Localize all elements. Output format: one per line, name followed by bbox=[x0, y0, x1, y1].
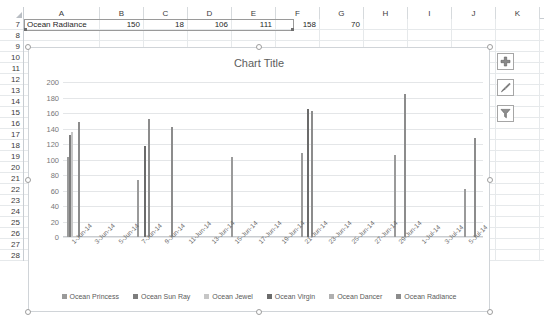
cell-K8[interactable] bbox=[496, 30, 540, 41]
cell-K23[interactable] bbox=[496, 195, 540, 206]
column-header-i[interactable]: I bbox=[408, 7, 452, 19]
cell-J7[interactable] bbox=[452, 19, 496, 30]
cell-D7[interactable]: 106 bbox=[188, 19, 232, 30]
chart-resize-handle-middle-right[interactable] bbox=[487, 177, 493, 183]
chart-bar[interactable] bbox=[307, 109, 309, 237]
column-header-e[interactable]: E bbox=[232, 7, 276, 19]
chart-styles-button[interactable] bbox=[497, 79, 514, 96]
chart-title[interactable]: Chart Title bbox=[29, 57, 489, 69]
chart-elements-button[interactable] bbox=[497, 53, 514, 70]
row-header-14[interactable]: 14 bbox=[0, 96, 23, 107]
cell-K19[interactable] bbox=[496, 151, 540, 162]
cell-H7[interactable] bbox=[364, 19, 408, 30]
cell-F7[interactable]: 158 bbox=[276, 19, 320, 30]
cell-K20[interactable] bbox=[496, 162, 540, 173]
column-header-g[interactable]: G bbox=[320, 7, 364, 19]
cell-B7[interactable]: 150 bbox=[100, 19, 144, 30]
row-header-27[interactable]: 27 bbox=[0, 239, 23, 250]
column-header-h[interactable]: H bbox=[364, 7, 408, 19]
chart-bar[interactable] bbox=[404, 94, 406, 237]
cell-C8[interactable] bbox=[144, 30, 188, 41]
row-header-22[interactable]: 22 bbox=[0, 184, 23, 195]
category-axis-labels[interactable]: 1-Jun-143-Jun-145-Jun-147-Jun-149-Jun-14… bbox=[63, 240, 483, 288]
row-header-7[interactable]: 7 bbox=[0, 19, 23, 30]
cell-I8[interactable] bbox=[408, 30, 452, 41]
chart-resize-handle-bottom-left[interactable] bbox=[25, 309, 31, 315]
cell-K17[interactable] bbox=[496, 129, 540, 140]
chart-legend[interactable]: Ocean PrincessOcean Sun RayOcean JewelOc… bbox=[29, 293, 489, 300]
chart-filters-button[interactable] bbox=[497, 105, 514, 122]
row-header-18[interactable]: 18 bbox=[0, 140, 23, 151]
row-header-21[interactable]: 21 bbox=[0, 173, 23, 184]
row-header-12[interactable]: 12 bbox=[0, 74, 23, 85]
chart-bar[interactable] bbox=[71, 132, 73, 237]
row-header-10[interactable]: 10 bbox=[0, 52, 23, 63]
cell-K21[interactable] bbox=[496, 173, 540, 184]
row-header-16[interactable]: 16 bbox=[0, 118, 23, 129]
cell-K25[interactable] bbox=[496, 217, 540, 228]
column-header-d[interactable]: D bbox=[188, 7, 232, 19]
chart-bar[interactable] bbox=[464, 189, 466, 237]
row-header-9[interactable]: 9 bbox=[0, 41, 23, 52]
cell-K9[interactable] bbox=[496, 41, 540, 52]
legend-item[interactable]: Ocean Jewel bbox=[204, 293, 252, 300]
cell-G7[interactable]: 70 bbox=[320, 19, 364, 30]
cell-K26[interactable] bbox=[496, 228, 540, 239]
cell-E8[interactable] bbox=[232, 30, 276, 41]
cell-E7[interactable]: 111 bbox=[232, 19, 276, 30]
chart-bar[interactable] bbox=[171, 127, 173, 237]
row-header-25[interactable]: 25 bbox=[0, 217, 23, 228]
cell-I7[interactable] bbox=[408, 19, 452, 30]
chart-resize-handle-middle-left[interactable] bbox=[25, 177, 31, 183]
legend-item[interactable]: Ocean Virgin bbox=[267, 293, 315, 300]
row-header-19[interactable]: 19 bbox=[0, 151, 23, 162]
row-header-24[interactable]: 24 bbox=[0, 206, 23, 217]
legend-item[interactable]: Ocean Princess bbox=[62, 293, 119, 300]
row-header-20[interactable]: 20 bbox=[0, 162, 23, 173]
row-header-17[interactable]: 17 bbox=[0, 129, 23, 140]
cell-H8[interactable] bbox=[364, 30, 408, 41]
column-header-k[interactable]: K bbox=[496, 7, 540, 19]
column-header-c[interactable]: C bbox=[144, 7, 188, 19]
chart-bar[interactable] bbox=[148, 119, 150, 237]
chart-resize-handle-top-center[interactable] bbox=[256, 44, 262, 50]
cell-F8[interactable] bbox=[276, 30, 320, 41]
cell-A7[interactable]: Ocean Radiance bbox=[24, 19, 100, 30]
legend-item[interactable]: Ocean Radiance bbox=[396, 293, 456, 300]
cell-J8[interactable] bbox=[452, 30, 496, 41]
row-header-23[interactable]: 23 bbox=[0, 195, 23, 206]
column-header-a[interactable]: A bbox=[24, 7, 100, 19]
cell-K7[interactable] bbox=[496, 19, 540, 30]
chart-bar[interactable] bbox=[311, 111, 313, 237]
chart-bar[interactable] bbox=[144, 146, 146, 237]
chart-resize-handle-bottom-right[interactable] bbox=[487, 309, 493, 315]
cell-K27[interactable] bbox=[496, 239, 540, 250]
cell-A8[interactable] bbox=[24, 30, 100, 41]
chart-bar[interactable] bbox=[78, 122, 80, 237]
chart-resize-handle-top-left[interactable] bbox=[25, 44, 31, 50]
chart-bar[interactable] bbox=[474, 138, 476, 237]
column-header-f[interactable]: F bbox=[276, 7, 320, 19]
row-header-8[interactable]: 8 bbox=[0, 30, 23, 41]
cell-K22[interactable] bbox=[496, 184, 540, 195]
cell-K18[interactable] bbox=[496, 140, 540, 151]
chart-resize-handle-bottom-center[interactable] bbox=[256, 309, 262, 315]
row-header-28[interactable]: 28 bbox=[0, 250, 23, 261]
legend-item[interactable]: Ocean Sun Ray bbox=[133, 293, 190, 300]
column-header-j[interactable]: J bbox=[452, 7, 496, 19]
cell-K24[interactable] bbox=[496, 206, 540, 217]
cell-C7[interactable]: 18 bbox=[144, 19, 188, 30]
row-header-15[interactable]: 15 bbox=[0, 107, 23, 118]
row-header-13[interactable]: 13 bbox=[0, 85, 23, 96]
cell-G8[interactable] bbox=[320, 30, 364, 41]
row-header-11[interactable]: 11 bbox=[0, 63, 23, 74]
chart-object[interactable]: Chart Title 020406080100120140160180200 … bbox=[28, 47, 490, 312]
legend-item[interactable]: Ocean Dancer bbox=[329, 293, 382, 300]
column-header-b[interactable]: B bbox=[100, 7, 144, 19]
cell-B8[interactable] bbox=[100, 30, 144, 41]
row-header-26[interactable]: 26 bbox=[0, 228, 23, 239]
cell-K28[interactable] bbox=[496, 250, 540, 261]
chart-resize-handle-top-right[interactable] bbox=[487, 44, 493, 50]
chart-plot-area[interactable]: 020406080100120140160180200 bbox=[63, 82, 483, 237]
select-all-corner[interactable] bbox=[0, 7, 24, 19]
